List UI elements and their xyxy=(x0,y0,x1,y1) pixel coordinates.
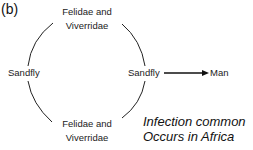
top-host-label: Felidae and Viverridae xyxy=(58,6,116,31)
left-vector-label: Sandfly xyxy=(8,67,40,78)
bottom-host-label: Felidae and Viverridae xyxy=(58,118,116,143)
bottom-host-line1: Felidae and xyxy=(58,118,116,129)
note-line2: Occurs in Africa xyxy=(143,129,246,144)
bottom-host-line2: Viverridae xyxy=(58,132,116,143)
top-host-line1: Felidae and xyxy=(58,6,116,17)
arc-top-left xyxy=(28,23,53,66)
arc-bottom-right xyxy=(122,81,145,118)
note-line1: Infection common xyxy=(143,114,246,129)
arrowhead-icon xyxy=(202,70,209,76)
arc-top-right xyxy=(122,24,145,66)
arc-bottom-left xyxy=(28,81,52,122)
distribution-note: Infection common Occurs in Africa xyxy=(143,114,246,144)
human-label: Man xyxy=(210,67,228,78)
right-vector-label: Sandfly xyxy=(128,67,160,78)
top-host-line2: Viverridae xyxy=(58,20,116,31)
